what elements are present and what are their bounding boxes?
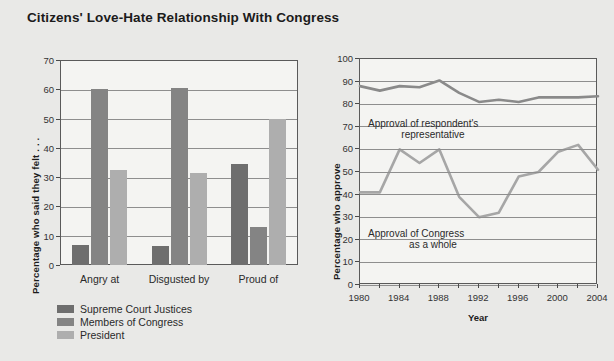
legend-label: President bbox=[80, 329, 124, 341]
line-chart-y-tick-mark bbox=[355, 261, 359, 262]
bar-chart-y-tick-label: 70 bbox=[43, 55, 54, 66]
bar bbox=[269, 119, 286, 265]
line-chart-x-tick-mark bbox=[498, 284, 499, 288]
bar-chart-y-tick-label: 40 bbox=[43, 142, 54, 153]
line-chart-y-tick-label: 80 bbox=[342, 98, 353, 109]
bar bbox=[190, 173, 207, 265]
bar-chart-category-label: Disgusted by bbox=[149, 273, 210, 285]
gridline bbox=[360, 217, 596, 218]
line-chart-y-axis-title: Percentage who approve bbox=[331, 163, 342, 280]
bar-chart-category-label: Angry at bbox=[80, 273, 119, 285]
line-chart-panel: Percentage who approve 01020304050607080… bbox=[310, 50, 614, 361]
bar-chart-y-tick-mark bbox=[56, 236, 60, 237]
bar-chart-y-tick-mark bbox=[56, 89, 60, 90]
line-chart-x-tick-label: 1996 bbox=[507, 292, 528, 303]
line-chart-x-tick-mark bbox=[379, 284, 380, 288]
line-chart-x-tick-label: 1988 bbox=[428, 292, 449, 303]
legend-item[interactable]: Supreme Court Justices bbox=[57, 302, 192, 315]
gridline bbox=[360, 172, 596, 173]
line-chart-x-tick-mark bbox=[438, 284, 439, 288]
line-chart-x-tick-mark bbox=[359, 284, 360, 288]
line-series bbox=[360, 80, 598, 101]
bar bbox=[152, 246, 169, 265]
legend-item[interactable]: President bbox=[57, 328, 192, 341]
figure-canvas: Citizens' Love-Hate Relationship With Co… bbox=[0, 0, 614, 361]
bar bbox=[110, 170, 127, 265]
bar bbox=[250, 227, 267, 265]
line-chart-x-tick-label: 1992 bbox=[467, 292, 488, 303]
annot-congress-line-2: as a whole bbox=[368, 239, 498, 250]
line-chart-x-tick-label: 1980 bbox=[348, 292, 369, 303]
bar bbox=[231, 164, 248, 265]
line-chart-y-tick-label: 50 bbox=[342, 166, 353, 177]
bar bbox=[171, 88, 188, 265]
bar-chart-y-tick-label: 30 bbox=[43, 172, 54, 183]
line-series bbox=[360, 145, 598, 217]
gridline bbox=[360, 104, 596, 105]
line-chart-x-axis-title: Year bbox=[359, 312, 597, 323]
gridline bbox=[360, 262, 596, 263]
annot-congress: Approval of Congressas a whole bbox=[368, 228, 498, 250]
bar-chart-category-label: Proud of bbox=[238, 273, 278, 285]
bar-chart-y-axis-title: Percentage who said they felt . . . bbox=[30, 138, 41, 294]
line-chart-y-tick-mark bbox=[355, 58, 359, 59]
gridline bbox=[360, 194, 596, 195]
line-chart-x-tick-mark bbox=[577, 284, 578, 288]
bar-chart-y-tick-mark bbox=[56, 265, 60, 266]
annot-representative-line-2: representative bbox=[368, 129, 498, 140]
line-chart-y-tick-mark bbox=[355, 103, 359, 104]
line-chart-x-tick-mark bbox=[538, 284, 539, 288]
line-chart-y-tick-label: 70 bbox=[342, 120, 353, 131]
bar bbox=[72, 245, 89, 266]
line-chart-plot-area bbox=[359, 58, 597, 284]
legend-swatch bbox=[57, 318, 74, 326]
line-chart-y-tick-label: 40 bbox=[342, 188, 353, 199]
line-chart-y-tick-mark bbox=[355, 216, 359, 217]
bar-chart-y-tick-mark bbox=[56, 177, 60, 178]
line-chart-y-tick-mark bbox=[355, 171, 359, 172]
line-chart-x-tick-label: 2004 bbox=[586, 292, 607, 303]
legend-item[interactable]: Members of Congress bbox=[57, 315, 192, 328]
line-chart-x-tick-mark bbox=[458, 284, 459, 288]
annot-representative: Approval of respondent'srepresentative bbox=[368, 118, 498, 140]
line-chart-y-tick-mark bbox=[355, 126, 359, 127]
line-chart-y-tick-label: 100 bbox=[337, 53, 353, 64]
figure-title: Citizens' Love-Hate Relationship With Co… bbox=[27, 10, 339, 25]
gridline bbox=[360, 149, 596, 150]
line-chart-y-tick-label: 20 bbox=[342, 233, 353, 244]
line-chart-x-tick-mark bbox=[597, 284, 598, 288]
line-chart-x-tick-mark bbox=[399, 284, 400, 288]
bar-chart-y-tick-label: 20 bbox=[43, 201, 54, 212]
line-chart-y-tick-label: 60 bbox=[342, 143, 353, 154]
line-chart-x-tick-mark bbox=[478, 284, 479, 288]
annot-congress-line-1: Approval of Congress bbox=[368, 228, 498, 239]
bar-chart-y-tick-label: 10 bbox=[43, 230, 54, 241]
bar-chart-y-tick-mark bbox=[56, 148, 60, 149]
bar-chart-y-tick-label: 50 bbox=[43, 113, 54, 124]
bar-chart-y-tick-label: 60 bbox=[43, 84, 54, 95]
bar-chart-y-tick-label: 0 bbox=[49, 260, 54, 271]
annot-representative-line-1: Approval of respondent's bbox=[368, 118, 498, 129]
line-chart-y-tick-mark bbox=[355, 239, 359, 240]
line-chart-y-tick-mark bbox=[355, 148, 359, 149]
bar-chart-legend: Supreme Court JusticesMembers of Congres… bbox=[57, 302, 192, 341]
line-chart-y-tick-label: 90 bbox=[342, 75, 353, 86]
legend-label: Supreme Court Justices bbox=[80, 303, 192, 315]
gridline bbox=[360, 81, 596, 82]
legend-swatch bbox=[57, 305, 74, 313]
line-chart-y-tick-label: 0 bbox=[348, 279, 353, 290]
legend-swatch bbox=[57, 331, 74, 339]
bar-chart-panel: Percentage who said they felt . . . 0102… bbox=[0, 50, 310, 361]
bar-chart-y-tick-mark bbox=[56, 206, 60, 207]
bar bbox=[91, 89, 108, 265]
line-chart-y-tick-mark bbox=[355, 194, 359, 195]
line-chart-x-tick-mark bbox=[518, 284, 519, 288]
bar-chart-y-tick-mark bbox=[56, 60, 60, 61]
line-chart-y-tick-label: 30 bbox=[342, 211, 353, 222]
line-chart-x-tick-mark bbox=[557, 284, 558, 288]
bar-chart-y-tick-mark bbox=[56, 119, 60, 120]
line-chart-y-tick-label: 10 bbox=[342, 256, 353, 267]
line-chart-x-tick-mark bbox=[419, 284, 420, 288]
line-chart-x-tick-label: 1984 bbox=[388, 292, 409, 303]
line-chart-y-tick-mark bbox=[355, 81, 359, 82]
